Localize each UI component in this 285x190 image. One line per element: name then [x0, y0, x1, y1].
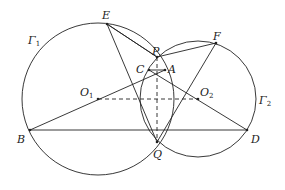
- segment-ep: [107, 24, 157, 57]
- circle-label: Γ2: [258, 94, 271, 108]
- point-c: [148, 69, 151, 72]
- point-label-q: Q: [153, 148, 162, 161]
- point-label-p: P: [151, 45, 160, 58]
- point-label-c: C: [136, 63, 145, 76]
- segment-eq: [107, 24, 157, 142]
- point-label-o2: O2: [200, 86, 214, 100]
- point-b: [29, 129, 32, 132]
- point-a: [164, 69, 167, 72]
- point-label-d: D: [250, 133, 260, 146]
- point-label-f: F: [212, 30, 221, 43]
- point-label-o1: O1: [80, 86, 94, 100]
- point-label-e: E: [101, 9, 110, 22]
- point-e: [106, 23, 109, 26]
- point-q: [156, 141, 159, 144]
- point-d: [246, 129, 249, 132]
- diagram-canvas: Γ1Γ2EFPCAO1O2BDQ: [0, 0, 285, 190]
- geometry-diagram: Γ1Γ2EFPCAO1O2BDQ: [0, 0, 285, 190]
- point-label-a: A: [167, 63, 176, 76]
- point-label-b: B: [16, 133, 25, 146]
- point-o1: [97, 98, 100, 101]
- point-o2: [197, 98, 200, 101]
- segment-pf: [157, 43, 216, 57]
- circle-label: Γ1: [27, 34, 40, 48]
